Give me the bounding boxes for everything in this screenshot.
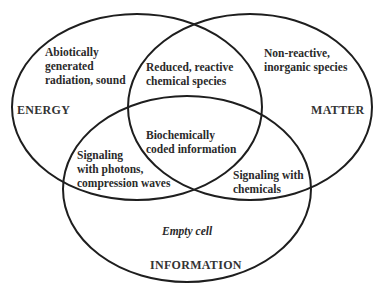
set-label-information: INFORMATION [150,258,242,272]
set-label-energy: ENERGY [17,103,70,117]
set-label-matter: MATTER [311,103,365,117]
region-matter-information: Signaling with chemicals [233,168,304,196]
region-energy-information: Signaling with photons, compression wave… [77,148,170,190]
venn-diagram: Abiotically generated radiation, sound R… [0,0,382,293]
region-information-only: Empty cell [162,224,212,238]
region-energy-matter: Reduced, reactive chemical species [146,60,233,88]
region-energy-only: Abiotically generated radiation, sound [45,45,126,87]
region-matter-only: Non-reactive, inorganic species [264,46,347,74]
